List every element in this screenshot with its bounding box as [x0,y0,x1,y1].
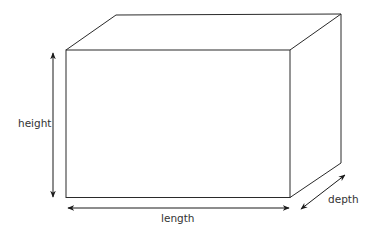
top-face [66,14,341,50]
length-label: length [161,212,194,224]
front-face [66,50,290,198]
box-outline [66,14,341,198]
height-label: height [18,117,51,129]
depth-label: depth [328,193,359,205]
box-diagram [0,0,371,235]
side-face [290,14,341,198]
